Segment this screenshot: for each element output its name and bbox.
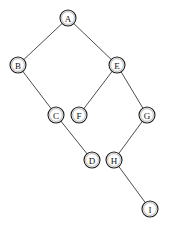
graph-edge-b-c [23,71,51,108]
node-label-d: D [89,156,96,166]
node-label-i: I [149,205,152,215]
graph-node-g[interactable]: G [139,107,155,123]
node-label-c: C [53,111,59,121]
node-label-e: E [114,61,120,71]
graph-edge-g-h [119,121,143,153]
node-layer: ABECFGDHI [10,10,158,217]
graph-node-a[interactable]: A [60,10,76,26]
graph-edge-e-g [121,72,143,108]
graph-figure: ABECFGDHI [0,0,171,228]
graph-edge-h-i [119,166,146,202]
graph-edge-a-e [74,24,111,60]
node-label-f: F [76,111,81,121]
node-label-a: A [65,14,72,24]
graph-node-h[interactable]: H [106,152,122,168]
graph-canvas: ABECFGDHI [0,0,171,228]
graph-edge-c-d [61,121,87,154]
graph-edge-a-b [24,23,62,59]
node-label-g: G [144,111,151,121]
node-label-b: B [15,61,21,71]
graph-node-d[interactable]: D [84,152,100,168]
graph-node-e[interactable]: E [109,57,125,73]
graph-node-c[interactable]: C [48,107,64,123]
graph-node-i[interactable]: I [142,201,158,217]
graph-node-f[interactable]: F [71,107,87,123]
graph-node-b[interactable]: B [10,57,26,73]
graph-edge-e-f [84,71,112,108]
node-label-h: H [111,156,118,166]
